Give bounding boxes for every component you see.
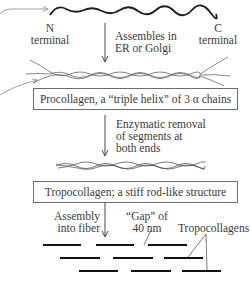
step3-line1: Assembly [50, 210, 100, 222]
down-arrow-2 [102, 115, 108, 156]
c-label-line1: C [196, 22, 240, 34]
step2-line2: of segments at [116, 130, 206, 142]
tropocollagens-label: Tropocollagens [178, 222, 249, 234]
step1-label: Assembles in ER or Golgi [115, 30, 177, 54]
step2-line1: Enzymatic removal [116, 118, 206, 130]
step2-label: Enzymatic removal of segments at both en… [116, 118, 206, 154]
step1-line1: Assembles in [115, 30, 177, 42]
gap-label-line1: “Gap” of [124, 210, 170, 222]
n-label-line1: N [30, 22, 70, 34]
gap-label-line2: 40 nm [124, 222, 170, 234]
pointer-arrow-top [0, 7, 48, 15]
down-arrow-1 [102, 23, 108, 62]
step2-line3: both ends [116, 142, 206, 154]
c-terminal-label: C terminal [196, 22, 240, 46]
n-terminal-label: N terminal [30, 22, 70, 46]
tropocollagens-leader-lines [188, 234, 207, 270]
step3-line2: into fiber [50, 222, 100, 234]
alpha-chain-wave [50, 5, 217, 18]
procollagen-box: Procollagen, a “triple helix” of 3 α cha… [33, 88, 238, 110]
tropocollagen-helix [56, 162, 205, 170]
procollagen-triple-helix [26, 57, 230, 86]
gap-label: “Gap” of 40 nm [124, 210, 170, 234]
step3-label: Assembly into fiber [50, 210, 100, 234]
pointer-arrow-middle [0, 79, 38, 95]
tropocollagen-box: Tropocollagen; a stiff rod-like structur… [33, 181, 238, 203]
n-label-line2: terminal [30, 34, 70, 46]
down-arrow-3 [102, 203, 108, 237]
step1-line2: ER or Golgi [115, 42, 177, 54]
c-label-line2: terminal [196, 34, 240, 46]
